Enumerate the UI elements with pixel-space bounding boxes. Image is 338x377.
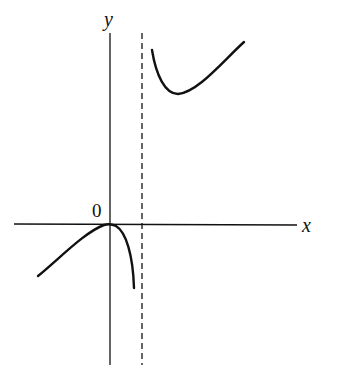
right-branch-curve: [152, 42, 244, 94]
x-axis: [14, 224, 297, 225]
x-axis-label: x: [301, 214, 311, 236]
function-graph: y x 0: [0, 0, 338, 377]
y-axis-label: y: [102, 8, 113, 31]
left-branch-curve: [38, 224, 134, 288]
origin-label: 0: [92, 200, 102, 221]
